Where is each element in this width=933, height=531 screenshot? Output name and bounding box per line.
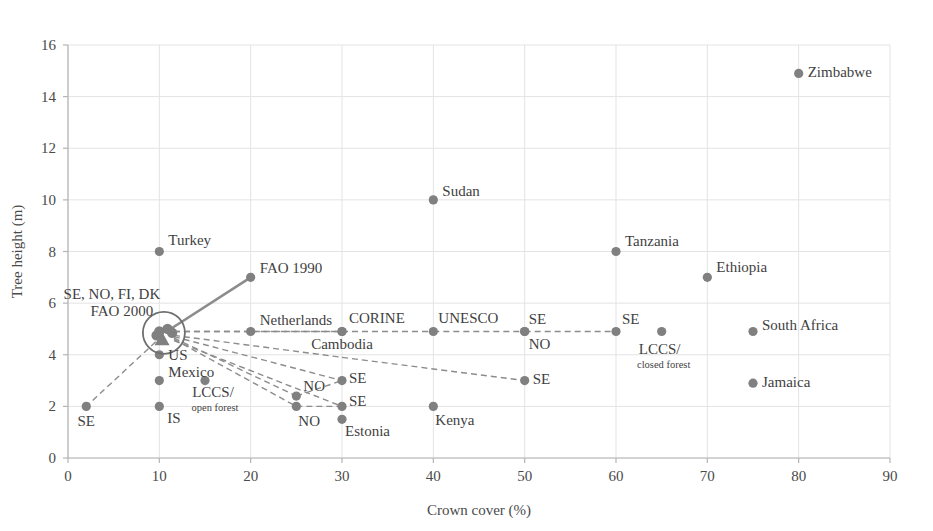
data-point-label: CORINE (349, 310, 405, 326)
data-point-marker (657, 327, 666, 336)
data-point-marker (292, 391, 301, 400)
data-point-marker (155, 247, 164, 256)
data-point-label: Tanzania (625, 233, 679, 249)
data-point-label: Jamaica (762, 374, 811, 390)
x-tick-label: 10 (152, 468, 167, 484)
data-point-marker (611, 327, 620, 336)
data-point-label: Ethiopia (716, 259, 767, 275)
y-tick-label: 2 (49, 398, 57, 414)
data-point-label: Zimbabwe (808, 64, 872, 80)
scatter-plot: ZimbabweSudanTurkeyTanzaniaEthiopiaFAO 1… (0, 0, 933, 531)
data-point-marker (794, 69, 803, 78)
data-point-label: NO (529, 336, 551, 352)
data-point-label: UNESCO (438, 310, 498, 326)
data-point-label: SE (529, 311, 547, 327)
data-point-label: US (168, 347, 187, 363)
y-tick-label: 14 (41, 89, 57, 105)
connector-se-2 (86, 342, 155, 407)
data-point-label: FAO 1990 (260, 260, 323, 276)
data-point-marker (292, 402, 301, 411)
x-tick-label: 70 (700, 468, 715, 484)
data-point-marker (703, 273, 712, 282)
data-point-sublabel: closed forest (637, 359, 690, 370)
data-point-sublabel: open forest (192, 402, 239, 413)
data-point-label: NO (298, 413, 320, 429)
data-point-label: SE (349, 393, 367, 409)
cluster-point-marker (167, 328, 177, 338)
fao-1990-connector (167, 277, 251, 331)
data-point-marker (611, 247, 620, 256)
data-point-marker (748, 379, 757, 388)
data-point-marker (246, 273, 255, 282)
data-point-label: South Africa (762, 317, 839, 333)
x-axis-title: Crown cover (%) (427, 502, 531, 519)
data-point-label: LCCS/ (639, 341, 682, 357)
data-point-marker (429, 402, 438, 411)
data-point-label: Estonia (345, 423, 390, 439)
data-point-marker (429, 327, 438, 336)
x-tick-label: 20 (243, 468, 258, 484)
y-tick-label: 16 (41, 37, 57, 53)
data-point-label: SE (622, 311, 640, 327)
y-tick-label: 4 (49, 347, 57, 363)
data-point-marker (337, 376, 346, 385)
x-tick-label: 30 (335, 468, 350, 484)
data-point-label: NO (303, 378, 325, 394)
data-point-label: SE (533, 371, 551, 387)
x-tick-label: 0 (64, 468, 72, 484)
data-point-marker (82, 402, 91, 411)
x-tick-label: 50 (517, 468, 532, 484)
data-point-marker (520, 376, 529, 385)
data-point-marker (155, 402, 164, 411)
x-tick-label: 90 (883, 468, 898, 484)
cluster-label-line1: SE, NO, FI, DK (64, 286, 161, 302)
data-point-label: Turkey (168, 232, 211, 248)
data-point-label: Netherlands (260, 312, 333, 328)
data-point-label: SE (78, 413, 96, 429)
scatter-chart-figure: ZimbabweSudanTurkeyTanzaniaEthiopiaFAO 1… (0, 0, 933, 531)
y-tick-label: 12 (41, 140, 56, 156)
y-tick-label: 8 (49, 244, 57, 260)
data-point-marker (748, 327, 757, 336)
y-tick-label: 10 (41, 192, 56, 208)
data-point-label: LCCS/ (192, 384, 235, 400)
axis-layer (63, 45, 890, 463)
data-point-label: SE (349, 370, 367, 386)
y-tick-label: 6 (49, 295, 57, 311)
data-point-label: Mexico (168, 364, 214, 380)
data-point-label: IS (167, 410, 180, 426)
x-tick-label: 80 (791, 468, 806, 484)
data-point-marker (337, 402, 346, 411)
data-point-label: Kenya (435, 412, 474, 428)
data-point-marker (429, 195, 438, 204)
y-axis-title: Tree height (m) (9, 205, 26, 299)
data-point-label: Cambodia (311, 336, 373, 352)
cluster-point-marker (151, 330, 161, 340)
data-point-marker (246, 327, 255, 336)
data-point-label: Sudan (442, 183, 480, 199)
y-tick-label: 0 (49, 450, 57, 466)
x-tick-label: 60 (609, 468, 624, 484)
x-tick-label: 40 (426, 468, 441, 484)
data-point-marker (155, 376, 164, 385)
cluster-label-line2: FAO 2000 (91, 303, 154, 319)
